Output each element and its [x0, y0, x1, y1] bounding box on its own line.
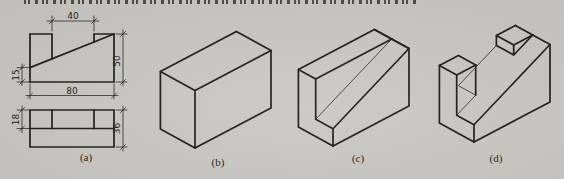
left-tower-top	[439, 56, 475, 76]
dimension-80: 80	[26, 84, 118, 99]
pictorial-view-c	[298, 30, 409, 147]
block-silhouette	[160, 32, 271, 149]
front-view-outline	[30, 34, 114, 82]
block-front-edges	[160, 51, 271, 149]
front-slant-edge	[474, 45, 550, 125]
figure-page: 40 50 15 80	[0, 0, 564, 179]
pictorial-view-b	[160, 32, 271, 149]
dimension-18: 18	[11, 106, 29, 133]
dim-label-15: 15	[11, 69, 21, 80]
dim-label-50: 50	[112, 55, 122, 67]
dim-label-36: 36	[112, 123, 122, 135]
dim-label-18: 18	[11, 114, 21, 126]
label-b: (b)	[212, 156, 225, 169]
top-front-edge	[316, 39, 392, 79]
oblique-cut-edge	[30, 34, 114, 68]
dimension-15: 15	[11, 64, 29, 86]
label-a: (a)	[80, 151, 93, 164]
left-step-edges	[439, 66, 474, 143]
top-view: 18 36	[11, 106, 127, 151]
top-view-outline	[30, 110, 114, 147]
pictorial-view-d	[439, 26, 550, 143]
slot-edges	[52, 110, 94, 129]
dim-label-40: 40	[67, 11, 79, 21]
figure-canvas: 40 50 15 80	[0, 0, 564, 179]
front-view: 40 50 15 80	[11, 11, 127, 100]
dimension-40: 40	[47, 11, 99, 32]
left-step-edges	[298, 70, 333, 147]
label-d: (d)	[490, 152, 503, 165]
right-tower-top	[496, 26, 532, 46]
label-c: (c)	[352, 152, 365, 165]
dim-label-80: 80	[66, 86, 78, 96]
